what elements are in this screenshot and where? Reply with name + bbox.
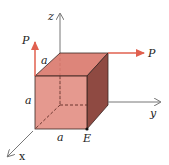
force-label-vertical: P <box>21 34 30 47</box>
point-e-label: E <box>82 132 91 145</box>
force-label-horizontal: P <box>147 47 156 60</box>
z-axis-label: z <box>47 10 54 23</box>
cube-front-face <box>35 76 87 129</box>
point-e-marker <box>85 127 88 130</box>
x-axis-label: x <box>19 150 26 163</box>
edge-label-left: a <box>25 94 32 107</box>
cube-diagram: z y x P P a a a E <box>0 0 169 165</box>
edge-label-top: a <box>41 54 48 67</box>
edge-label-bottom: a <box>57 131 64 144</box>
y-axis-label: y <box>149 107 157 120</box>
